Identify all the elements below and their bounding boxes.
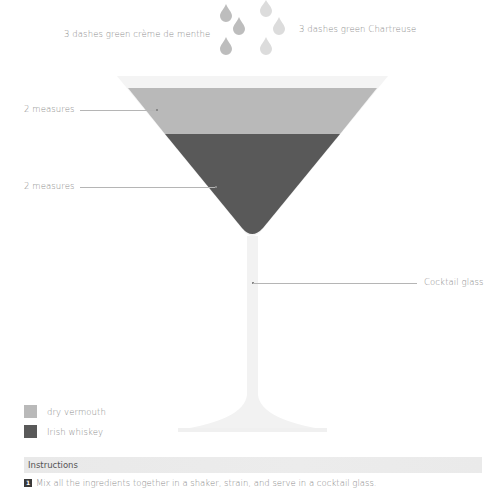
leader-line bbox=[80, 187, 216, 188]
garnish-label-creme-de-menthe: 3 dashes green crème de menthe bbox=[64, 29, 210, 39]
drop-icon bbox=[260, 37, 272, 55]
legend-label: Irish whiskey bbox=[47, 427, 103, 437]
glass-stem bbox=[247, 236, 258, 401]
measure-label-dry-vermouth: 2 measures bbox=[24, 104, 75, 114]
drop-icon bbox=[260, 0, 272, 17]
drop-icon bbox=[233, 17, 245, 35]
glass-base bbox=[178, 395, 327, 430]
measure-label-irish-whiskey: 2 measures bbox=[24, 181, 75, 191]
drop-icon bbox=[220, 4, 232, 22]
leader-dot bbox=[156, 109, 158, 111]
legend-label: dry vermouth bbox=[47, 407, 106, 417]
drop-icon bbox=[273, 17, 285, 35]
glass-foot bbox=[178, 428, 327, 432]
instructions-header: Instructions bbox=[24, 457, 482, 473]
garnish-label-chartreuse: 3 dashes green Chartreuse bbox=[299, 24, 416, 34]
step-number-badge: 1 bbox=[24, 479, 32, 487]
legend-swatch bbox=[24, 425, 37, 438]
layer-irish-whiskey bbox=[165, 134, 340, 234]
step-text: Mix all the ingredients together in a sh… bbox=[36, 478, 377, 488]
leader-line bbox=[253, 283, 417, 284]
legend-swatch bbox=[24, 405, 37, 418]
drop-icon-group-left bbox=[220, 4, 245, 55]
drop-icon-group-right bbox=[260, 0, 285, 55]
legend-item-irish-whiskey: Irish whiskey bbox=[24, 425, 103, 438]
legend-item-dry-vermouth: dry vermouth bbox=[24, 405, 106, 418]
instruction-step: 1 Mix all the ingredients together in a … bbox=[24, 478, 377, 488]
leader-line bbox=[80, 110, 157, 111]
glass-label: Cocktail glass bbox=[424, 277, 484, 287]
drop-icon bbox=[220, 37, 232, 55]
layer-dry-vermouth bbox=[128, 88, 377, 134]
leader-dot bbox=[215, 186, 217, 188]
instructions-title: Instructions bbox=[28, 460, 78, 470]
